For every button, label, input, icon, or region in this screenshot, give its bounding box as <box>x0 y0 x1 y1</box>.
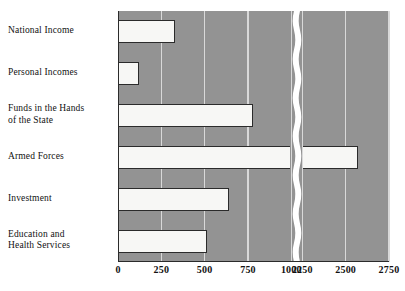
axis-break-indicator <box>289 11 305 262</box>
category-label-national-income: National Income <box>8 25 110 37</box>
bar-education-and-health-services <box>118 230 207 253</box>
category-label-personal-incomes: Personal Incomes <box>8 67 110 79</box>
bar-personal-incomes <box>118 62 139 85</box>
x-tick-label-500: 500 <box>197 264 213 275</box>
bar-investment <box>118 188 229 211</box>
gridline-750 <box>247 11 249 262</box>
gridline-2750 <box>388 11 390 262</box>
x-axis-tick-labels: 02505007501000225025002750 <box>0 264 405 284</box>
category-axis-labels: National Income Personal Incomes Funds i… <box>0 0 118 291</box>
x-tick-label-0: 0 <box>115 264 120 275</box>
plot-area <box>118 11 389 262</box>
bar-armed-forces-continued <box>303 146 357 169</box>
bar-armed-forces <box>118 146 290 169</box>
x-tick-label-2250: 2250 <box>292 264 313 275</box>
x-tick-label-250: 250 <box>154 264 170 275</box>
bar-chart: National Income Personal Incomes Funds i… <box>0 0 405 291</box>
gridline-500 <box>204 11 206 262</box>
category-label-education-and-health-services: Education and Health Services <box>8 229 110 252</box>
bar-funds-in-the-hands-of-the-state <box>118 104 253 127</box>
x-tick-label-750: 750 <box>240 264 256 275</box>
gridline-250 <box>161 11 163 262</box>
x-tick-label-2500: 2500 <box>335 264 356 275</box>
x-tick-label-2750: 2750 <box>379 264 400 275</box>
category-label-investment: Investment <box>8 193 110 205</box>
category-label-armed-forces: Armed Forces <box>8 151 110 163</box>
gridline-2500 <box>345 11 347 262</box>
bar-national-income <box>118 20 175 43</box>
category-label-funds-in-the-hands-of-the-state: Funds in the Hands of the State <box>8 103 110 126</box>
